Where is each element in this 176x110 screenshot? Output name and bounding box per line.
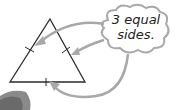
callout-text: 3 equal sides. — [106, 12, 166, 42]
arrowhead-right — [71, 47, 80, 55]
callout-line-2: sides. — [106, 27, 166, 42]
equilateral-triangle — [10, 19, 85, 82]
callout-line-1: 3 equal — [106, 12, 166, 27]
